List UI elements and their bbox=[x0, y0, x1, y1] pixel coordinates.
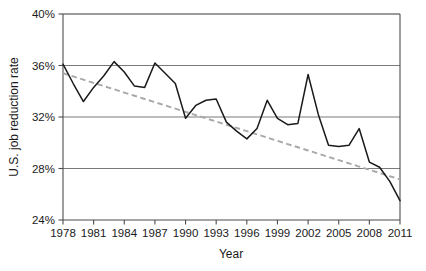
x-tick-label-2002: 2002 bbox=[295, 227, 321, 239]
chart-container: 1978198119841987199019931996199920022005… bbox=[0, 0, 426, 271]
y-tick-label-32%: 32% bbox=[32, 111, 55, 123]
y-axis-ticks bbox=[59, 14, 64, 220]
x-axis-tick-labels: 1978198119841987199019931996199920022005… bbox=[50, 227, 412, 239]
y-tick-label-24%: 24% bbox=[32, 214, 55, 226]
x-tick-label-1981: 1981 bbox=[81, 227, 107, 239]
x-tick-label-1978: 1978 bbox=[50, 227, 76, 239]
y-axis-title: U.S. job reduction rate bbox=[7, 57, 21, 177]
x-tick-label-2011: 2011 bbox=[388, 227, 413, 239]
x-axis-title: Year bbox=[219, 247, 243, 261]
line-chart: 1978198119841987199019931996199920022005… bbox=[0, 0, 426, 271]
y-tick-label-36%: 36% bbox=[32, 60, 55, 72]
y-tick-label-28%: 28% bbox=[32, 163, 55, 175]
x-tick-label-1993: 1993 bbox=[203, 227, 229, 239]
x-axis-ticks bbox=[63, 220, 400, 225]
x-tick-label-1999: 1999 bbox=[265, 227, 291, 239]
x-tick-label-2005: 2005 bbox=[326, 227, 352, 239]
x-tick-label-1987: 1987 bbox=[142, 227, 168, 239]
x-tick-label-2008: 2008 bbox=[357, 227, 383, 239]
x-tick-label-1990: 1990 bbox=[173, 227, 199, 239]
y-axis-tick-labels: 24%28%32%36%40% bbox=[32, 8, 55, 226]
x-tick-label-1996: 1996 bbox=[234, 227, 260, 239]
y-tick-label-40%: 40% bbox=[32, 8, 55, 20]
x-tick-label-1984: 1984 bbox=[111, 227, 137, 239]
